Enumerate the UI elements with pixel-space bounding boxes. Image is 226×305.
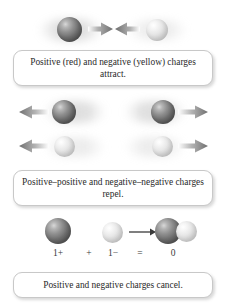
caption-attract-text: Positive (red) and negative (yellow) cha… [22,56,204,81]
arrow-left-icon [19,105,49,119]
sphere-negative-icon-right [152,136,173,157]
attraction-illustration-row [0,12,226,48]
equals-operator: = [131,248,149,258]
caption-repel-text: Positive–positive and negative–negative … [22,176,204,201]
negative-charge-value: 1− [101,248,125,258]
caption-repel: Positive–positive and negative–negative … [13,170,213,206]
sphere-positive-icon [45,218,71,244]
sphere-negative-icon-left [54,136,75,157]
sphere-negative-icon [102,222,123,243]
sphere-negative-icon [146,19,168,41]
reaction-arrow-icon [129,227,156,237]
arrow-left-icon [115,22,140,36]
charge-interaction-figure: Positive (red) and negative (yellow) cha… [0,0,226,305]
net-charge-value: 0 [164,248,182,258]
arrow-right-icon [178,105,208,119]
arrow-left-icon [19,139,49,153]
caption-cancel-text: Positive and negative charges cancel. [43,279,183,291]
caption-cancel: Positive and negative charges cancel. [13,272,213,298]
arrow-right-icon [88,22,113,36]
positive-charge-value: 1+ [46,248,70,258]
sphere-positive-icon-left [52,100,76,124]
arrow-right-icon [178,139,208,153]
sphere-negative-icon-paired [176,221,197,242]
caption-attract: Positive (red) and negative (yellow) cha… [13,50,213,86]
sphere-positive-icon-right [151,100,175,124]
repulsion-negative-row [0,133,226,165]
repulsion-positive-row [0,96,226,130]
plus-operator: + [80,248,98,258]
sphere-positive-icon [57,17,82,42]
charge-cancellation-row: 1+ + 1− = 0 [0,214,226,268]
